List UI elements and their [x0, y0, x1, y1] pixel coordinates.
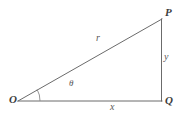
- side-label-y: y: [164, 52, 168, 62]
- angle-theta-arc: [37, 89, 40, 101]
- side-r-line: [18, 19, 162, 101]
- angle-label-theta: θ: [69, 79, 73, 88]
- vertex-label-o: O: [9, 94, 17, 105]
- geometry-figure: O P Q r y x θ: [0, 0, 180, 117]
- side-label-r: r: [96, 33, 100, 43]
- vertex-label-p: P: [165, 7, 172, 18]
- triangle-drawing: [0, 0, 180, 117]
- vertex-label-q: Q: [165, 95, 173, 106]
- side-label-x: x: [110, 102, 114, 112]
